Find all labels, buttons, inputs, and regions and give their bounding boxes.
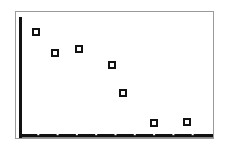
scatter-plot: (0.9, 8.7)(1.9, 7)(3.1, 7.3)(4.8, 6)(5.4… bbox=[0, 0, 231, 152]
x-tick bbox=[153, 134, 155, 135]
x-tick bbox=[115, 134, 117, 135]
data-point-marker: (0.9, 8.7) bbox=[33, 29, 39, 35]
data-point-marker: (5.4, 3.6) bbox=[120, 90, 126, 96]
data-point-marker: (3.1, 7.3) bbox=[76, 46, 82, 52]
x-tick bbox=[76, 134, 78, 135]
data-point-marker: (4.8, 6) bbox=[109, 62, 115, 68]
data-point-marker: (7, 1.1) bbox=[151, 120, 157, 126]
data-point-marker: (1.9, 7) bbox=[52, 50, 58, 56]
x-tick bbox=[192, 134, 194, 135]
x-tick bbox=[37, 134, 39, 135]
y-axis bbox=[19, 17, 22, 138]
x-tick bbox=[134, 134, 136, 135]
data-markers: (0.9, 8.7)(1.9, 7)(3.1, 7.3)(4.8, 6)(5.4… bbox=[33, 29, 190, 126]
x-tick bbox=[172, 134, 174, 135]
data-point-marker: (8.7, 1.2) bbox=[184, 119, 190, 125]
x-tick bbox=[57, 134, 59, 135]
x-tick bbox=[95, 134, 97, 135]
